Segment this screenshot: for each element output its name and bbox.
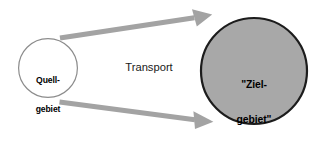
source-circle-label: Quell- gebiet — [18, 57, 78, 134]
arrowhead-upper — [192, 9, 212, 26]
target-label-line-1: "Ziel- — [200, 79, 308, 91]
transport-edge-label: Transport — [112, 61, 186, 73]
arrow-shaft-upper — [60, 15, 195, 40]
source-label-line-1: Quell- — [18, 76, 78, 86]
source-label-line-2: gebiet — [18, 105, 78, 115]
transport-arrow-lower — [59, 100, 213, 129]
diagram-canvas: Quell- gebiet "Ziel- gebiet" Transport — [0, 0, 324, 143]
transport-arrow-upper — [60, 9, 213, 40]
target-circle-label: "Ziel- gebiet" — [200, 56, 308, 143]
target-label-line-2: gebiet" — [200, 114, 308, 126]
arrow-shaft-lower — [59, 100, 195, 123]
